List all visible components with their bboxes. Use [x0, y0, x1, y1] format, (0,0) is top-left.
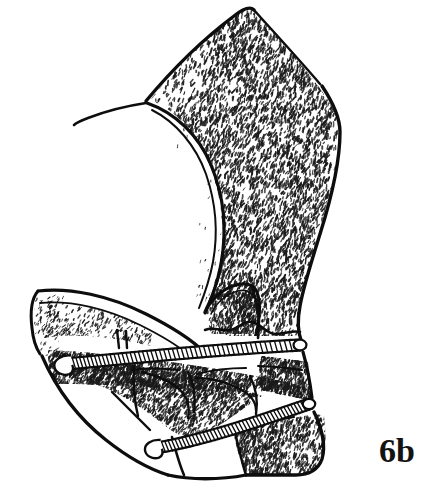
figure-canvas: 6b [0, 0, 429, 496]
band-upper-end-cap [294, 340, 307, 351]
band-upper-knob [54, 355, 73, 374]
anatomical-illustration [0, 0, 429, 496]
arm-inner-curve [40, 302, 186, 353]
band-lower-knob [145, 440, 163, 458]
apex-filament [74, 103, 146, 125]
bottom-contour [168, 475, 246, 479]
arm-top-curve [38, 290, 204, 352]
panel-label: 6b [379, 434, 415, 468]
arm-strut-right [126, 331, 127, 348]
band-lower-end-cap [303, 399, 315, 409]
arm-strut-left [117, 330, 119, 348]
